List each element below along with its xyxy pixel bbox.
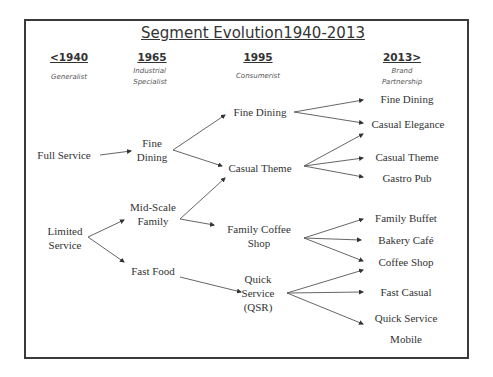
- node-family-buffet: Family Buffet: [375, 211, 437, 225]
- year-header-2013: 2013>: [383, 51, 421, 63]
- arrow-fcs-to-family-buffet: [304, 219, 363, 238]
- era-text-line2: Specialist: [133, 77, 167, 88]
- node-text-line1: Quick: [242, 272, 275, 286]
- node-fast-food: Fast Food: [131, 264, 175, 278]
- era-label-industrial-specialist: Industrial Specialist: [133, 66, 167, 88]
- arrow-fd95-to-fd13: [294, 100, 363, 112]
- node-text-line1: Limited: [48, 224, 83, 238]
- arrow-fine-dining-to-casual-theme: [173, 150, 222, 166]
- node-coffee-shop: Coffee Shop: [378, 255, 433, 269]
- node-fine-dining-1995: Fine Dining: [234, 105, 287, 119]
- node-casual-theme-2013: Casual Theme: [375, 150, 438, 164]
- arrow-midscale-to-family-coffee: [180, 219, 214, 225]
- era-text: Consumerist: [236, 72, 280, 80]
- arrow-fd95-to-casual-elegance: [294, 112, 363, 123]
- node-limited-service: Limited Service: [48, 224, 83, 252]
- node-casual-theme-1995: Casual Theme: [228, 161, 291, 175]
- node-mid-scale-family: Mid-Scale Family: [130, 200, 176, 228]
- era-label-generalist: Generalist: [51, 72, 87, 83]
- node-text-line1: Fine: [137, 136, 168, 150]
- node-casual-elegance: Casual Elegance: [372, 117, 445, 131]
- year-header-1965: 1965: [137, 51, 166, 63]
- node-fine-dining-2013: Fine Dining: [381, 92, 434, 106]
- node-text-line1: Family Coffee: [227, 222, 291, 236]
- era-label-consumerist: Consumerist: [236, 71, 280, 82]
- node-bakery-cafe: Bakery Café: [378, 233, 433, 247]
- arrow-fcs-to-coffee-shop: [304, 238, 363, 261]
- year-header-1995: 1995: [243, 51, 272, 63]
- era-text-line1: Brand: [382, 66, 422, 77]
- year-header-1940: <1940: [50, 51, 88, 63]
- arrow-full-service-to-fine-dining: [100, 151, 131, 155]
- arrow-qsr-to-fast-casual: [287, 292, 363, 293]
- arrow-ct-to-gastro-pub: [304, 166, 363, 177]
- arrow-fastfood-to-qsr: [180, 277, 241, 292]
- node-text-line2: Shop: [227, 236, 291, 250]
- era-label-brand-partnership: Brand Partnership: [382, 66, 422, 88]
- era-text-line2: Partnership: [382, 77, 422, 88]
- arrow-fcs-to-bakery-cafe: [304, 238, 361, 240]
- node-text-line2: Family: [130, 214, 176, 228]
- era-text: Generalist: [51, 73, 87, 81]
- node-text-line3: (QSR): [242, 300, 275, 314]
- node-quick-service-qsr: Quick Service (QSR): [242, 272, 275, 314]
- arrow-ct-to-casual-elegance: [304, 134, 363, 166]
- arrow-midscale-to-casual-theme: [180, 178, 225, 219]
- node-text-line2: Service: [242, 286, 275, 300]
- node-quick-service-2013: Quick Service: [375, 311, 438, 325]
- arrow-limited-to-fastfood: [88, 237, 124, 262]
- era-text-line1: Industrial: [133, 66, 167, 77]
- arrow-limited-to-midscale: [88, 220, 124, 237]
- node-text-line2: Service: [48, 238, 83, 252]
- arrow-fine-dining-to-fine-dining-95: [173, 115, 225, 150]
- node-family-coffee-shop: Family Coffee Shop: [227, 222, 291, 250]
- arrow-qsr-to-quick-service: [287, 293, 363, 324]
- node-mobile: Mobile: [390, 332, 422, 346]
- diagram-title: Segment Evolution1940-2013: [141, 24, 365, 42]
- node-text-line1: Mid-Scale: [130, 200, 176, 214]
- node-text-line2: Dining: [137, 150, 168, 164]
- node-full-service: Full Service: [37, 148, 90, 162]
- node-fine-dining-1965: Fine Dining: [137, 136, 168, 164]
- node-gastro-pub: Gastro Pub: [382, 171, 431, 185]
- arrow-ct-to-casual-theme: [304, 158, 363, 166]
- arrow-qsr-to-coffee-shop: [287, 270, 363, 293]
- node-fast-casual: Fast Casual: [380, 285, 431, 299]
